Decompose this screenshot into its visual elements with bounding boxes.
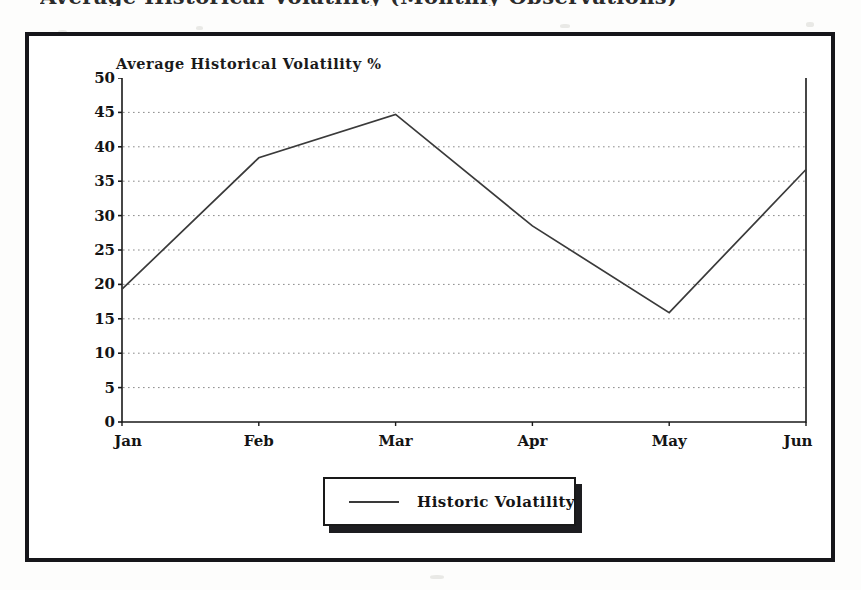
y-tick-label: 40 (94, 138, 115, 156)
x-tick-label: Mar (378, 432, 412, 450)
axis-ticks (118, 78, 806, 426)
chart-title: Average Historical Volatility % (116, 55, 382, 72)
chart-axes (118, 78, 810, 426)
y-tick-label: 30 (94, 207, 115, 225)
gridlines (123, 112, 805, 387)
x-tick-label: Apr (517, 432, 547, 450)
x-tick-label: Jan (114, 432, 142, 450)
y-tick-label: 35 (94, 172, 115, 190)
scan-speck (806, 22, 814, 27)
y-tick-label: 15 (94, 310, 115, 328)
scan-speck (560, 24, 570, 28)
scanned-page: Average Historical Volatility (Monthly O… (0, 0, 861, 590)
y-tick-label: 50 (94, 69, 115, 87)
x-axis-tick-labels: JanFebMarAprMayJun (118, 432, 810, 456)
legend-line-swatch (349, 501, 399, 503)
scan-speck (196, 26, 203, 30)
y-tick-label: 0 (105, 413, 115, 431)
clipped-page-heading: Average Historical Volatility (Monthly O… (40, 0, 740, 6)
y-tick-label: 25 (94, 241, 115, 259)
x-tick-label: May (652, 432, 687, 450)
series-line-historic-volatility (122, 114, 806, 312)
x-tick-label: Feb (244, 432, 274, 450)
legend-label: Historic Volatility (417, 493, 575, 511)
x-tick-label: Jun (784, 432, 813, 450)
y-tick-label: 10 (94, 344, 115, 362)
scan-speck (430, 575, 444, 579)
y-tick-label: 20 (94, 275, 115, 293)
y-axis-tick-labels: 05101520253035404550 (79, 78, 115, 426)
y-tick-label: 5 (105, 379, 115, 397)
plot-area: Average Historical Volatility % 05101520… (29, 36, 839, 566)
chart-svg (118, 78, 810, 426)
y-tick-label: 45 (94, 103, 115, 121)
figure-frame: Average Historical Volatility % 05101520… (25, 32, 835, 562)
chart-legend: Historic Volatility (323, 477, 576, 526)
